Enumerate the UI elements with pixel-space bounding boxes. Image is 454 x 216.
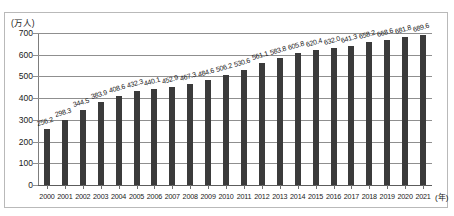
bar-group: 298.32001: [62, 33, 68, 185]
bar-value-label: 408.6: [108, 83, 126, 94]
bar[interactable]: [259, 63, 265, 185]
bar-value-label: 641.3: [340, 32, 358, 43]
bar[interactable]: [62, 120, 68, 185]
x-tick-mark: [334, 185, 335, 189]
x-tick-mark: [316, 185, 317, 189]
bar[interactable]: [402, 37, 408, 185]
x-tick-label: 2017: [344, 192, 359, 201]
bar-group: 506.22010: [223, 33, 229, 185]
bar[interactable]: [134, 91, 140, 185]
x-tick-mark: [369, 185, 370, 189]
x-tick-label: 2019: [380, 192, 395, 201]
y-tick-mark-500: [33, 76, 38, 77]
bar-group: 383.92003: [98, 33, 104, 185]
x-tick-mark: [351, 185, 352, 189]
x-tick-label: 2012: [254, 192, 269, 201]
x-axis-unit-label: (年): [435, 191, 448, 202]
y-axis-line: [38, 33, 39, 185]
bar[interactable]: [44, 129, 50, 185]
chart-container: (万人) 0100200300400500600700 256.22000298…: [4, 12, 448, 208]
x-tick-label: 2010: [218, 192, 233, 201]
bar-group: 689.62021: [420, 33, 426, 185]
bar[interactable]: [187, 84, 193, 185]
y-tick-mark-700: [33, 33, 38, 34]
bar[interactable]: [384, 40, 390, 185]
bar-group: 620.42015: [313, 33, 319, 185]
bar-group: 408.62004: [116, 33, 122, 185]
x-tick-label: 2015: [308, 192, 323, 201]
x-tick-label: 2005: [129, 192, 144, 201]
bar[interactable]: [241, 70, 247, 185]
bar-group: 561.12012: [259, 33, 265, 185]
bar-value-label: 632.0: [323, 34, 341, 45]
bar[interactable]: [80, 110, 86, 185]
x-tick-mark: [137, 185, 138, 189]
x-tick-mark: [423, 185, 424, 189]
bar-group: 467.32008: [187, 33, 193, 185]
x-tick-mark: [405, 185, 406, 189]
y-tick-mark-400: [33, 98, 38, 99]
bar[interactable]: [420, 35, 426, 185]
x-tick-mark: [262, 185, 263, 189]
x-tick-label: 2006: [147, 192, 162, 201]
x-tick-label: 2020: [398, 192, 413, 201]
bar-value-label: 530.6: [233, 57, 251, 68]
bar[interactable]: [366, 42, 372, 185]
bar-value-label: 467.3: [179, 70, 197, 81]
y-tick-mark-0: [33, 185, 38, 186]
bar-group: 452.92007: [169, 33, 175, 185]
bar-value-label: 452.9: [161, 73, 179, 84]
bar-value-label: 689.6: [412, 22, 430, 33]
bar[interactable]: [169, 87, 175, 185]
x-tick-mark: [65, 185, 66, 189]
bar[interactable]: [116, 96, 122, 185]
bar[interactable]: [223, 75, 229, 185]
y-tick-label-100: 100: [19, 158, 33, 168]
bar-value-label: 605.8: [287, 40, 305, 51]
x-tick-label: 2018: [362, 192, 377, 201]
bar[interactable]: [331, 48, 337, 185]
y-tick-label-300: 300: [19, 115, 33, 125]
bar[interactable]: [313, 50, 319, 185]
bar-group: 641.32017: [348, 33, 354, 185]
x-tick-mark: [154, 185, 155, 189]
y-tick-mark-200: [33, 142, 38, 143]
bar-value-label: 440.1: [143, 76, 161, 87]
x-tick-label: 2001: [57, 192, 72, 201]
plot-area: 0100200300400500600700 256.22000298.3200…: [38, 33, 432, 185]
x-tick-mark: [208, 185, 209, 189]
y-tick-label-600: 600: [19, 50, 33, 60]
bar-value-label: 298.3: [54, 107, 72, 118]
bar-group: 668.62019: [384, 33, 390, 185]
x-tick-mark: [387, 185, 388, 189]
x-tick-mark: [101, 185, 102, 189]
x-tick-label: 2021: [415, 192, 430, 201]
bar-group: 530.62011: [241, 33, 247, 185]
x-tick-label: 2007: [165, 192, 180, 201]
x-tick-label: 2016: [326, 192, 341, 201]
bar-group: 583.82013: [277, 33, 283, 185]
x-tick-mark: [280, 185, 281, 189]
bar[interactable]: [205, 80, 211, 185]
bar[interactable]: [98, 102, 104, 185]
y-tick-label-0: 0: [28, 180, 33, 190]
y-tick-label-200: 200: [19, 137, 33, 147]
bar[interactable]: [277, 58, 283, 185]
bar-group: 658.22018: [366, 33, 372, 185]
x-tick-mark: [226, 185, 227, 189]
x-tick-mark: [47, 185, 48, 189]
bar[interactable]: [348, 46, 354, 185]
bar-value-label: 506.2: [215, 62, 233, 73]
bar-value-label: 561.1: [251, 50, 269, 61]
y-axis-unit-label: (万人): [11, 16, 35, 28]
bar-value-label: 658.2: [358, 29, 376, 40]
bar-value-label: 620.4: [305, 37, 323, 48]
bar-group: 432.32005: [134, 33, 140, 185]
x-tick-mark: [172, 185, 173, 189]
bar[interactable]: [151, 89, 157, 185]
bar[interactable]: [295, 53, 301, 185]
gridline-0: [38, 185, 432, 186]
bar-group: 484.62009: [205, 33, 211, 185]
y-tick-mark-600: [33, 55, 38, 56]
x-tick-label: 2008: [183, 192, 198, 201]
